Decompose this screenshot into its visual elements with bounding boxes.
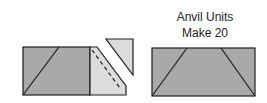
- finished-anvil-unit: [152, 48, 255, 96]
- anvil-unit-diagram: [0, 0, 267, 103]
- left-dark-square: [23, 47, 90, 95]
